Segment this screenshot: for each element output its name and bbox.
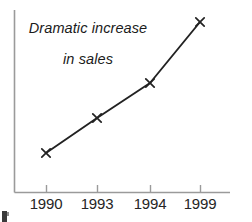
x-axis-tick-label: 1990	[18, 195, 74, 212]
chart-title: Dramatic increase in sales	[22, 5, 154, 67]
x-axis-tick-label: 1994	[122, 195, 178, 212]
x-axis-tick-label: 1993	[69, 195, 125, 212]
x-axis-tick-label: 1999	[172, 195, 228, 212]
chart-screenshot: Dramatic increase in sales 1990199319941…	[0, 0, 252, 222]
corner-artifact-mark	[2, 211, 7, 222]
chart-title-line-1: Dramatic increase	[29, 20, 148, 36]
chart-title-line-2: in sales	[63, 51, 113, 67]
